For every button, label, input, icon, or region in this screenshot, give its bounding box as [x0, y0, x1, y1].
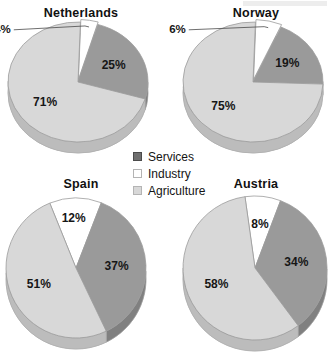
slice-label: 12%: [62, 211, 86, 225]
slice-label: 51%: [27, 277, 51, 291]
pie-panel-spain: Spain 12%37%51%: [2, 177, 160, 355]
sector-legend: Services Industry Agriculture: [133, 148, 228, 199]
legend-item-industry: Industry: [133, 165, 228, 182]
pie-stage-spain: 12%37%51%: [2, 192, 160, 352]
legend-label-industry: Industry: [148, 168, 191, 180]
slice-label: 71%: [33, 95, 57, 109]
legend-item-services: Services: [133, 148, 228, 165]
slice-label: 8%: [251, 217, 269, 231]
pie-svg-norway: 6%19%75%: [177, 20, 335, 156]
legend-swatch-services: [133, 152, 142, 161]
pie-stage-netherlands: 4%25%71%: [2, 20, 160, 156]
slice-label: 37%: [105, 259, 129, 273]
legend-item-agriculture: Agriculture: [133, 182, 228, 199]
slice-label: 6%: [169, 23, 186, 35]
pie-svg-spain: 12%37%51%: [2, 192, 160, 352]
pie-svg-austria: 8%34%58%: [177, 192, 335, 352]
slice-label: 4%: [0, 23, 11, 35]
slice-label: 75%: [211, 99, 235, 113]
slice-label: 25%: [102, 58, 126, 72]
slice-label: 34%: [284, 255, 308, 269]
slice-label: 19%: [275, 56, 299, 70]
pie-panel-netherlands: Netherlands 4%25%71%: [2, 6, 160, 156]
pie-stage-norway: 6%19%75%: [177, 20, 335, 156]
slice-label: 58%: [204, 277, 228, 291]
pie-title-norway: Norway: [177, 6, 335, 20]
legend-swatch-industry: [133, 169, 142, 178]
pie-stage-austria: 8%34%58%: [177, 192, 335, 352]
pie-svg-netherlands: 4%25%71%: [2, 20, 160, 156]
pie-panel-austria: Austria 8%34%58%: [177, 177, 335, 355]
legend-label-agriculture: Agriculture: [148, 185, 205, 197]
legend-label-services: Services: [148, 151, 194, 163]
pie-title-netherlands: Netherlands: [2, 6, 160, 20]
pie-panel-norway: Norway 6%19%75%: [177, 6, 335, 156]
legend-swatch-agriculture: [133, 186, 142, 195]
